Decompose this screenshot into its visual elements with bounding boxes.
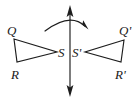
- reflection-diagram-svg: Q R S S' Q' R': [0, 0, 140, 101]
- triangle-qrs: [14, 39, 57, 62]
- label-s-prime: S': [72, 45, 82, 60]
- label-r-prime: R': [114, 67, 126, 82]
- label-r: R: [10, 67, 19, 82]
- rotation-arc-path: [45, 20, 85, 31]
- triangle-q-prime-r-prime-s-prime: [85, 40, 124, 62]
- label-q-prime: Q': [119, 23, 131, 38]
- rotation-arc-arrowhead-icon: [79, 20, 89, 29]
- geometry-figure: Q R S S' Q' R': [0, 0, 140, 101]
- label-s: S: [58, 45, 65, 60]
- label-q: Q: [7, 23, 17, 38]
